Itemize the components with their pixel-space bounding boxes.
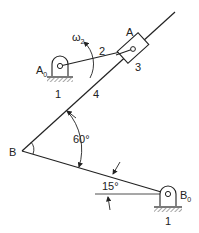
angle-15-arrow-top <box>113 162 120 174</box>
label-ground-b0: 1 <box>165 215 171 227</box>
link-b-b0-line <box>22 151 168 194</box>
label-link-4: 4 <box>93 88 99 100</box>
link-4-line <box>22 12 175 151</box>
label-link-3: 3 <box>135 61 141 73</box>
label-a0: A0 <box>36 64 47 78</box>
label-a: A <box>126 26 134 38</box>
mechanism-diagram: A A0 ω2 2 3 4 1 B 60° 15° B0 1 <box>0 0 199 233</box>
label-angle-60: 60° <box>73 133 90 145</box>
label-omega: ω2 <box>72 31 85 45</box>
angle-15-arrow-bottom <box>108 197 110 210</box>
label-link-2: 2 <box>99 45 105 57</box>
pivot-b0 <box>165 191 170 196</box>
label-b0: B0 <box>180 189 191 203</box>
angle-mark-b <box>31 142 34 154</box>
label-angle-15: 15° <box>102 180 119 192</box>
pivot-a0 <box>57 63 62 68</box>
label-b: B <box>9 146 16 158</box>
ground-pivot-b0 <box>154 186 182 212</box>
label-ground-a0: 1 <box>55 88 61 100</box>
pivot-a <box>131 47 136 52</box>
